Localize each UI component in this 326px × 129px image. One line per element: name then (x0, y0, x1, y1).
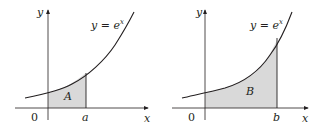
bound-label-a: a (82, 111, 89, 124)
right-panel: y y = ex 0 b x B (172, 6, 309, 125)
function-label: y = ex (90, 18, 124, 32)
x-axis-label: x (144, 112, 151, 125)
left-panel: y y = ex 0 a x A (15, 6, 151, 125)
shaded-region-b (205, 40, 277, 108)
bound-label-b: b (273, 111, 280, 124)
y-axis-label: y (195, 6, 203, 19)
region-label-a: A (63, 90, 72, 103)
x-axis-label: x (302, 112, 309, 125)
region-label-b: B (245, 85, 254, 98)
origin-label: 0 (31, 111, 38, 124)
function-label: y = ex (249, 18, 283, 32)
y-axis-label: y (36, 6, 44, 19)
figure-canvas: y y = ex 0 a x A y y = ex 0 b x B (0, 0, 326, 129)
origin-label: 0 (188, 111, 195, 124)
